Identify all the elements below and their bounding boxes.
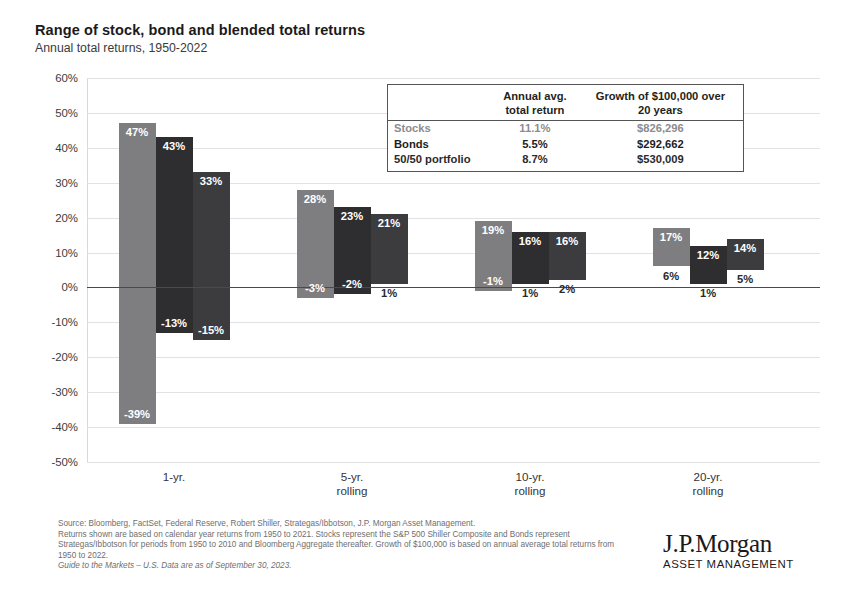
- summary-row-name: Bonds: [388, 137, 492, 153]
- footnote: Source: Bloomberg, FactSet, Federal Rese…: [58, 519, 633, 572]
- bar-min-label: -13%: [156, 317, 193, 329]
- bar-max-label: 33%: [193, 175, 230, 187]
- summary-table-row: Bonds5.5%$292,662: [388, 137, 743, 153]
- bar-min-label: 2%: [549, 283, 586, 295]
- summary-header-growth-line1: Growth of $100,000 over: [596, 90, 725, 102]
- page-title: Range of stock, bond and blended total r…: [35, 22, 365, 38]
- bar-min-label: 6%: [653, 270, 690, 282]
- y-axis-tick-label: 20%: [55, 212, 78, 224]
- bar-max-label: 47%: [119, 126, 156, 138]
- summary-header-growth-line2: 20 years: [638, 104, 683, 116]
- bar-min-label: -2%: [334, 278, 371, 290]
- y-axis-tick-label: 40%: [55, 142, 78, 154]
- bar-max-label: 28%: [297, 193, 334, 205]
- x-axis-group-label-line1: 20-yr.: [653, 470, 763, 484]
- bar-min-label: 5%: [727, 273, 764, 285]
- bar-max-label: 14%: [727, 242, 764, 254]
- chart-header: Range of stock, bond and blended total r…: [35, 22, 365, 55]
- bar-50-50-portfolio-0: [193, 172, 230, 340]
- summary-header-avg-return: Annual avg. total return: [492, 85, 578, 120]
- bar-max-label: 16%: [512, 235, 549, 247]
- summary-row-growth: $530,009: [578, 152, 743, 171]
- bar-stocks-0: [119, 123, 156, 423]
- summary-table: Annual avg. total return Growth of $100,…: [387, 84, 744, 172]
- summary-row-avg-return: 8.7%: [492, 152, 578, 171]
- bar-min-label: -15%: [193, 324, 230, 336]
- y-axis-tick-label: -20%: [51, 351, 78, 363]
- x-axis-group-label-0: 1-yr.: [119, 470, 229, 484]
- bar-min-label: 1%: [371, 287, 408, 299]
- top-edge: [0, 0, 850, 2]
- summary-header-avg-return-line1: Annual avg.: [503, 90, 566, 102]
- y-axis-tick-label: 10%: [55, 247, 78, 259]
- bar-min-label: -3%: [297, 282, 334, 294]
- x-axis-group-label-3: 20-yr.rolling: [653, 470, 763, 498]
- summary-row-name: Stocks: [388, 121, 492, 137]
- footnote-source: Source: Bloomberg, FactSet, Federal Rese…: [58, 519, 633, 530]
- summary-table-head: Annual avg. total return Growth of $100,…: [388, 85, 743, 121]
- jpmorgan-logo: J.P.Morgan ASSET MANAGEMENT: [663, 531, 813, 570]
- summary-row-avg-return: 5.5%: [492, 137, 578, 153]
- summary-table-grid: Annual avg. total return Growth of $100,…: [388, 85, 743, 171]
- gridline: [87, 427, 820, 428]
- x-axis-group-label-1: 5-yr.rolling: [297, 470, 407, 498]
- bar-min-label: -39%: [119, 408, 156, 420]
- y-axis-tick-label: -30%: [51, 386, 78, 398]
- y-axis-tick-label: 30%: [55, 177, 78, 189]
- bar-min-label: -1%: [475, 275, 512, 287]
- bar-min-label: 1%: [512, 287, 549, 299]
- summary-row-growth: $292,662: [578, 137, 743, 153]
- gridline: [87, 392, 820, 393]
- bar-max-label: 43%: [156, 140, 193, 152]
- bar-max-label: 19%: [475, 224, 512, 236]
- bar-max-label: 12%: [690, 249, 727, 261]
- summary-table-header-row: Annual avg. total return Growth of $100,…: [388, 85, 743, 120]
- logo-tagline: ASSET MANAGEMENT: [663, 558, 813, 570]
- summary-header-growth: Growth of $100,000 over 20 years: [578, 85, 743, 120]
- summary-table-row: Stocks11.1%$826,296: [388, 121, 743, 137]
- summary-table-body: Stocks11.1%$826,296Bonds5.5%$292,66250/5…: [388, 121, 743, 171]
- logo-wordmark: J.P.Morgan: [663, 531, 813, 557]
- summary-row-name: 50/50 portfolio: [388, 152, 492, 171]
- footnote-methodology: Returns shown are based on calendar year…: [58, 530, 633, 562]
- x-axis-group-label-line2: rolling: [653, 484, 763, 498]
- x-axis-group-label-line2: rolling: [297, 484, 407, 498]
- y-axis-tick-label: -10%: [51, 316, 78, 328]
- summary-table-row: 50/50 portfolio8.7%$530,009: [388, 152, 743, 171]
- x-axis-group-label-line1: 5-yr.: [297, 470, 407, 484]
- gridline: [87, 462, 820, 463]
- x-axis-group-label-line1: 10-yr.: [475, 470, 585, 484]
- footnote-guide: Guide to the Markets – U.S. Data are as …: [58, 561, 633, 572]
- bar-max-label: 21%: [371, 217, 408, 229]
- summary-row-avg-return: 11.1%: [492, 121, 578, 137]
- x-axis-group-label-line2: rolling: [475, 484, 585, 498]
- x-axis-group-label-line1: 1-yr.: [119, 470, 229, 484]
- bar-min-label: 1%: [690, 287, 727, 299]
- y-axis-tick-label: -50%: [51, 456, 78, 468]
- bar-max-label: 23%: [334, 210, 371, 222]
- summary-row-growth: $826,296: [578, 121, 743, 137]
- chart-subtitle: Annual total returns, 1950-2022: [35, 41, 365, 55]
- bar-bonds-0: [156, 137, 193, 332]
- y-axis-tick-label: 0%: [62, 281, 78, 293]
- x-axis-group-label-2: 10-yr.rolling: [475, 470, 585, 498]
- bar-max-label: 17%: [653, 231, 690, 243]
- summary-header-avg-return-line2: total return: [505, 104, 564, 116]
- y-axis-tick-label: -40%: [51, 421, 78, 433]
- y-axis-tick-label: 50%: [55, 107, 78, 119]
- bar-max-label: 16%: [549, 235, 586, 247]
- gridline: [87, 78, 820, 79]
- summary-header-blank: [388, 85, 492, 120]
- y-axis-tick-label: 60%: [55, 72, 78, 84]
- gridline: [87, 357, 820, 358]
